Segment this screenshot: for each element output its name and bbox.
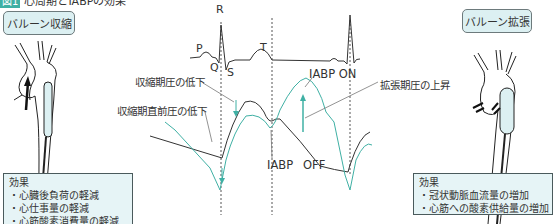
arrow-head-icon: [24, 76, 31, 86]
annotation-iabp-off-1: IABP: [267, 158, 293, 172]
upward-flow-arrow: [26, 82, 28, 110]
annotation-presystolic-drop: 収縮期直前圧の低下: [117, 103, 207, 118]
annotation-iabp-on: IABP ON: [309, 67, 356, 81]
annotation-systolic-drop: 収縮期圧の低下: [135, 74, 205, 89]
up-arrow-icon: [300, 94, 306, 101]
effect-item: ・心仕事量の軽減: [9, 202, 127, 215]
down-arrow-icon: [219, 178, 225, 184]
arterial-pressure-iabp: [165, 78, 372, 190]
ecg-label-s: S: [227, 66, 234, 79]
right-flow-arrows: [492, 103, 500, 114]
effect-item: ・冠状動脈血流量の増加: [419, 189, 547, 202]
effect-item: ・心筋への酸素供給量の増加: [419, 202, 547, 215]
ecg-label-p: P: [196, 42, 203, 55]
effects-heading: 効果: [419, 176, 547, 189]
effects-deflate-box: 効果 ・心臓後負荷の軽減 ・心仕事量の軽減 ・心筋酸素消費量の軽減: [3, 173, 133, 224]
effects-inflate-box: 効果 ・冠状動脈血流量の増加 ・心筋への酸素供給量の増加: [413, 173, 553, 215]
annotation-diastolic-rise: 拡張期圧の上昇: [380, 77, 450, 92]
ecg-label-t: T: [260, 41, 267, 54]
effects-heading: 効果: [9, 176, 127, 189]
annotation-iabp-off-2: OFF: [303, 158, 325, 172]
effect-item: ・心臓後負荷の軽減: [9, 189, 127, 202]
effect-item: ・心筋酸素消費量の軽減: [9, 215, 127, 224]
ecg-label-q: Q: [210, 61, 219, 74]
ecg-label-r: R: [216, 3, 224, 16]
timing-guides: [221, 18, 350, 215]
